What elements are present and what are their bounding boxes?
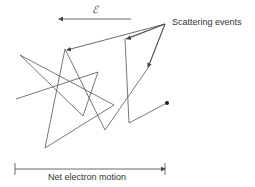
electron-path bbox=[16, 24, 165, 148]
random-walk-diagram bbox=[0, 0, 255, 187]
pointer-arrow-2 bbox=[127, 24, 165, 39]
pointer-arrow-3 bbox=[148, 24, 165, 67]
pointer-arrow-1 bbox=[67, 24, 165, 50]
electron-dot bbox=[165, 101, 169, 105]
